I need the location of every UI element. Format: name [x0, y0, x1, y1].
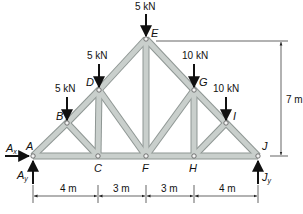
node-label-a: A: [26, 141, 33, 152]
node-label-j: J: [262, 141, 268, 152]
member-fill: [146, 90, 194, 156]
member-fill: [67, 123, 98, 156]
member-fill: [226, 123, 258, 156]
joint-h-pin-icon: [192, 154, 196, 158]
member-fill: [99, 39, 146, 90]
load-label-e: 5 kN: [135, 2, 156, 12]
member-fill: [67, 90, 99, 123]
member-fill: [99, 90, 146, 156]
dimension-label-height: 7 m: [285, 95, 303, 105]
load-label-g: 10 kN: [182, 51, 208, 61]
load-label-i: 10 kN: [213, 84, 239, 94]
node-label-g: G: [199, 77, 208, 88]
node-label-c: C: [94, 163, 102, 174]
node-label-h: H: [189, 163, 197, 174]
reaction-label-ay: Ay: [17, 170, 28, 182]
load-label-b: 5 kN: [55, 84, 76, 94]
dimension-label-ac: 4 m: [59, 184, 78, 194]
dimension-label-fh: 3 m: [160, 184, 179, 194]
joint-i-pin-icon: [224, 121, 228, 125]
node-label-d: D: [86, 77, 94, 88]
joint-j-pin-icon: [256, 154, 260, 158]
joint-d-pin-icon: [97, 88, 101, 92]
member-fill: [98, 90, 99, 156]
node-label-b: B: [56, 111, 63, 122]
node-label-f: F: [142, 163, 149, 174]
joint-g-pin-icon: [192, 88, 196, 92]
vertical-dimension: [156, 41, 288, 156]
reaction-arrows: [5, 156, 258, 184]
joint-f-pin-icon: [144, 154, 148, 158]
node-label-i: I: [233, 111, 236, 122]
member-fill: [146, 39, 194, 90]
joint-c-pin-icon: [96, 154, 100, 158]
reaction-label-jy: Jy: [262, 172, 271, 184]
joint-b-pin-icon: [65, 121, 69, 125]
joint-e-pin-icon: [144, 37, 148, 41]
dimension-label-cf: 3 m: [112, 184, 131, 194]
load-label-d: 5 kN: [87, 51, 108, 61]
node-label-e: E: [151, 28, 158, 39]
joint-a-pin-icon: [31, 154, 35, 158]
dimension-label-hj: 4 m: [218, 184, 237, 194]
member-fill: [194, 123, 226, 156]
reaction-label-ax: Ax: [6, 143, 17, 155]
member-fill: [194, 90, 226, 123]
member-fill: [33, 123, 67, 156]
